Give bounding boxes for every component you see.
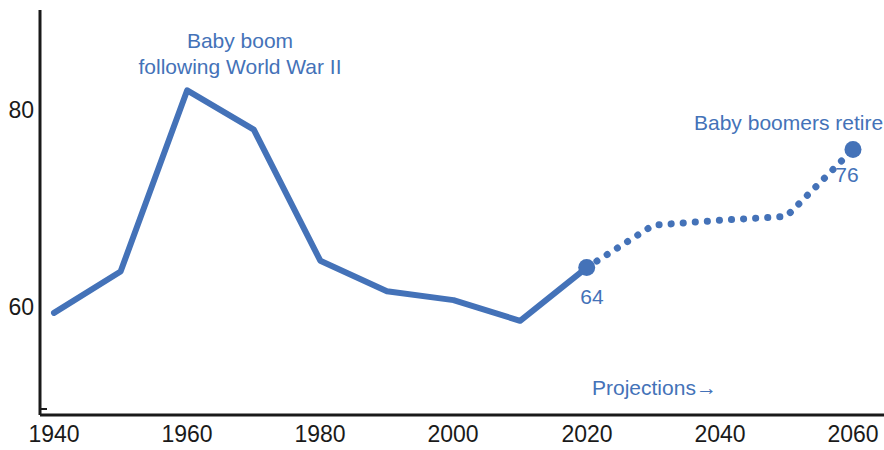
x-tick-label-2000: 2000 [427, 421, 478, 448]
annotation-projections: Projections→ [592, 375, 717, 401]
annotation-baby-boom-line2: following World War II [138, 54, 341, 80]
annotation-boomers-retire: Baby boomers retire [694, 110, 883, 136]
chart-plot-area [0, 0, 884, 450]
data-point-markers [578, 141, 861, 276]
series-line-projections [587, 149, 853, 267]
x-tick-label-2040: 2040 [694, 421, 745, 448]
x-tick-label-2020: 2020 [561, 421, 612, 448]
data-label-2060: 76 [835, 163, 858, 187]
annotation-baby-boom-line1: Baby boom [138, 28, 341, 54]
data-label-2020: 64 [580, 285, 603, 309]
x-tick-label-1940: 1940 [28, 421, 79, 448]
x-tick-label-2060: 2060 [827, 421, 878, 448]
x-tick-label-1980: 1980 [294, 421, 345, 448]
annotation-baby-boom: Baby boom following World War II [138, 28, 341, 80]
data-point-2020 [578, 259, 595, 276]
y-tick-label-80: 80 [0, 97, 34, 124]
data-point-2060 [845, 141, 862, 158]
line-chart: 80 60 1940 1960 1980 2000 2020 2040 2060… [0, 0, 884, 450]
series-line-historical [54, 90, 587, 320]
x-tick-label-1960: 1960 [161, 421, 212, 448]
y-tick-label-60: 60 [0, 294, 34, 321]
